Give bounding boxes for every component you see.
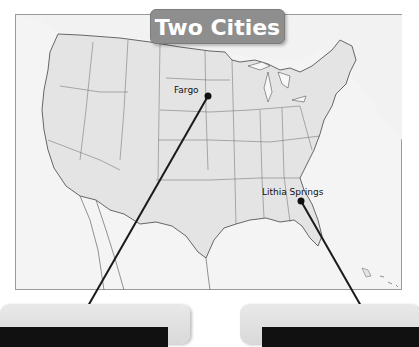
title-banner: Two Cities <box>150 9 285 44</box>
fargo-dot[interactable] <box>205 93 212 100</box>
lithia-springs-info-box <box>240 304 419 344</box>
lithia-springs-dot[interactable] <box>298 198 305 205</box>
lithia-springs-info-bar <box>262 327 419 347</box>
fargo-info-box <box>0 304 190 344</box>
fargo-label: Fargo <box>174 85 199 95</box>
fargo-info-bar <box>0 327 168 347</box>
lithia-springs-label: Lithia Springs <box>262 187 323 197</box>
